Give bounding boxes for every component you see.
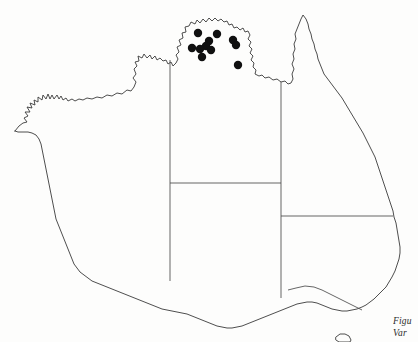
occurrence-dot xyxy=(188,44,196,52)
occurrence-dot xyxy=(198,53,206,61)
occurrence-dot-layer xyxy=(188,29,242,69)
occurrence-dot xyxy=(234,61,242,69)
occurrence-dot xyxy=(207,46,215,54)
occurrence-dot xyxy=(232,41,240,49)
australia-distribution-map xyxy=(0,0,418,342)
state-borders-group xyxy=(170,60,393,310)
caption-line-2: Var xyxy=(393,328,418,340)
coastline-group xyxy=(15,15,400,342)
tasmania-outline xyxy=(336,334,351,342)
occurrence-dot xyxy=(196,45,204,53)
figure-root: Figu Var xyxy=(0,0,418,342)
figure-caption: Figu Var xyxy=(393,316,418,339)
caption-line-1: Figu xyxy=(393,316,418,328)
occurrence-dot xyxy=(213,30,221,38)
mainland-coastline xyxy=(15,15,400,328)
occurrence-dot xyxy=(194,29,202,37)
